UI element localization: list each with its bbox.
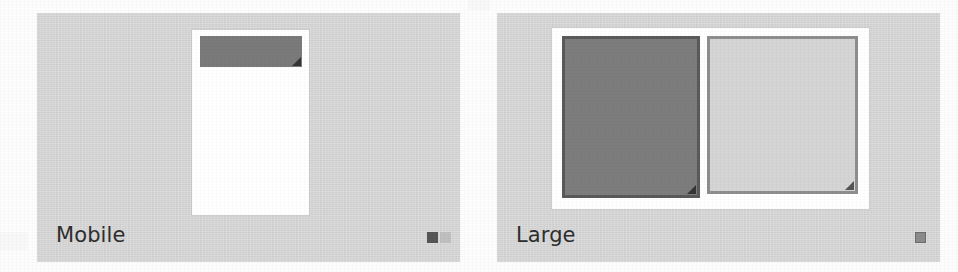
large-viewport-card[interactable]: [552, 28, 869, 209]
scan-artifact: [468, 0, 490, 10]
status-badges-large: [915, 232, 926, 243]
layout-block-header-band[interactable]: [200, 36, 302, 67]
breakpoint-panel-large[interactable]: Large: [497, 13, 940, 262]
badge-active[interactable]: [915, 232, 926, 243]
layout-block-primary-column[interactable]: [562, 36, 700, 198]
page-canvas: Mobile Large: [0, 0, 958, 272]
resize-handle-icon[interactable]: [845, 181, 854, 190]
mobile-viewport-card[interactable]: [192, 30, 309, 215]
scan-artifact: [0, 232, 28, 250]
status-badges-mobile: [427, 232, 451, 243]
breakpoint-panel-mobile[interactable]: Mobile: [37, 13, 460, 262]
panel-label-large: Large: [516, 225, 576, 246]
badge-active[interactable]: [427, 232, 438, 243]
layout-block-secondary-column[interactable]: [707, 36, 858, 194]
resize-handle-icon[interactable]: [687, 185, 696, 194]
badge-inactive[interactable]: [440, 232, 451, 243]
panel-label-mobile: Mobile: [56, 225, 126, 246]
resize-handle-icon[interactable]: [292, 57, 301, 66]
